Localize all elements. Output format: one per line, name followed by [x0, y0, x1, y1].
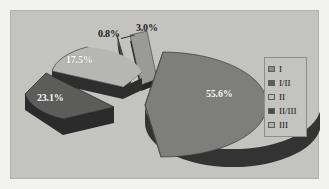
legend-item-i[interactable]: I [268, 62, 303, 76]
legend-item-i-ii[interactable]: I/II [268, 76, 303, 90]
legend-swatch-icon [268, 94, 275, 100]
legend-item-ii[interactable]: II [268, 90, 303, 104]
legend-item-iii[interactable]: III [268, 118, 303, 132]
legend: I I/II II II/III III [264, 57, 307, 137]
legend-swatch-icon [268, 66, 275, 72]
legend-label-iii: III [279, 121, 288, 130]
legend-label-i-ii: I/II [279, 79, 291, 88]
legend-item-ii-iii[interactable]: II/III [268, 104, 303, 118]
legend-label-ii: II [279, 93, 285, 102]
legend-swatch-icon [268, 108, 275, 114]
legend-label-i: I [279, 65, 282, 74]
plot-area: 55.6% 23.1% 17.5% 0.8% 3.0% I I/II II II… [10, 10, 319, 179]
pie-chart-image: 55.6% 23.1% 17.5% 0.8% 3.0% I I/II II II… [0, 0, 329, 189]
legend-swatch-icon [268, 80, 275, 86]
legend-label-ii-iii: II/III [279, 107, 297, 116]
legend-swatch-icon [268, 122, 275, 128]
